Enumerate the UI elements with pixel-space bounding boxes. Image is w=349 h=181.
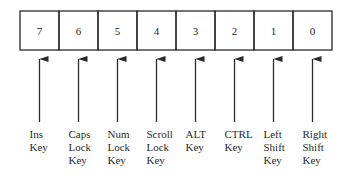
key-label-line: Lock bbox=[69, 141, 92, 154]
key-label-bit-6: CapsLockKey bbox=[69, 128, 92, 167]
key-label-bit-3: ALTKey bbox=[186, 128, 206, 154]
key-label-line: Lock bbox=[108, 141, 131, 154]
register-cells: 76543210 bbox=[20, 11, 332, 50]
key-label-bit-0: RightShiftKey bbox=[303, 128, 327, 167]
key-label-bit-7: InsKey bbox=[30, 128, 48, 154]
bit-number: 4 bbox=[154, 25, 160, 37]
bit-number: 1 bbox=[271, 25, 277, 37]
key-label-line: Key bbox=[264, 154, 285, 167]
key-label-bit-2: CTRLKey bbox=[225, 128, 253, 154]
key-label-line: Caps bbox=[69, 128, 92, 141]
key-label-line: Right bbox=[303, 128, 327, 141]
key-label-line: Left bbox=[264, 128, 285, 141]
bit-number: 2 bbox=[232, 25, 238, 37]
bit-number: 6 bbox=[76, 25, 82, 37]
key-label-line: Key bbox=[30, 141, 48, 154]
key-label-line: Shift bbox=[303, 141, 327, 154]
key-label-line: ALT bbox=[186, 128, 206, 141]
bit-field-diagram: 76543210 bbox=[0, 0, 349, 181]
key-label-line: Key bbox=[108, 154, 131, 167]
key-label-line: Num bbox=[108, 128, 131, 141]
key-label-bit-4: ScrollLockKey bbox=[147, 128, 173, 167]
key-label-line: Key bbox=[225, 141, 253, 154]
key-label-line: Ins bbox=[30, 128, 48, 141]
bit-number: 3 bbox=[193, 25, 199, 37]
key-label-line: Lock bbox=[147, 141, 173, 154]
key-label-line: Key bbox=[69, 154, 92, 167]
key-label-bit-5: NumLockKey bbox=[108, 128, 131, 167]
key-label-line: Shift bbox=[264, 141, 285, 154]
bit-number: 7 bbox=[37, 25, 43, 37]
key-label-line: CTRL bbox=[225, 128, 253, 141]
bit-number: 5 bbox=[115, 25, 121, 37]
key-label-line: Scroll bbox=[147, 128, 173, 141]
key-label-bit-1: LeftShiftKey bbox=[264, 128, 285, 167]
key-label-line: Key bbox=[147, 154, 173, 167]
arrows bbox=[40, 59, 313, 122]
key-label-line: Key bbox=[303, 154, 327, 167]
bit-number: 0 bbox=[310, 25, 316, 37]
key-label-line: Key bbox=[186, 141, 206, 154]
